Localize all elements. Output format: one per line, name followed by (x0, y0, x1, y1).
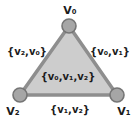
edge-label-bottom: {v₁,v₂} (50, 105, 90, 115)
edge-label-left: {v₂,v₀} (7, 47, 47, 57)
vertex-dot-v0 (62, 19, 76, 33)
face-label: {v₀,v₁,v₂} (41, 72, 96, 82)
vertex-label-v1: V₁ (117, 106, 130, 117)
triangle-face (20, 26, 117, 95)
simplex-diagram: V₀ V₁ V₂ {v₂,v₀} {v₀,v₁} {v₁,v₂} {v₀,v₁,… (0, 0, 138, 129)
edge-label-right: {v₀,v₁} (90, 47, 130, 57)
vertex-label-v0: V₀ (63, 5, 76, 16)
vertex-label-v2: V₂ (6, 106, 19, 117)
vertex-dot-v2 (13, 88, 27, 102)
vertex-dot-v1 (110, 88, 124, 102)
